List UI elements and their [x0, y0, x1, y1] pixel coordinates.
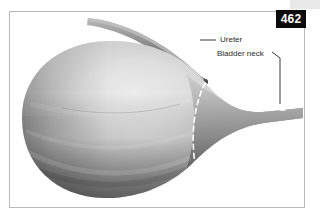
bladder-body — [0, 0, 320, 222]
page-number-badge: 462 — [276, 10, 306, 28]
bladder-illustration — [0, 0, 320, 222]
bladder-neck-leader-line — [272, 52, 280, 104]
callout-label-ureter: Ureter — [220, 36, 242, 44]
figure-root: Ureter Bladder neck 462 — [0, 0, 320, 222]
callout-label-bladder-neck: Bladder neck — [217, 50, 264, 58]
